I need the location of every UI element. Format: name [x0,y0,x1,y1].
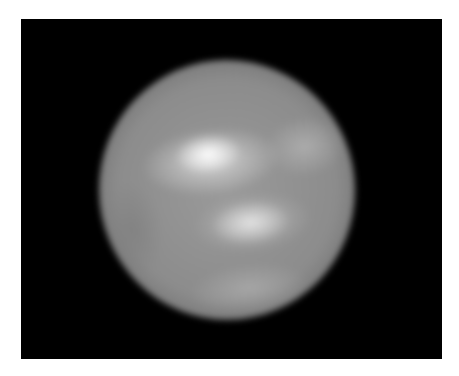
planet-sphere [86,47,368,332]
image-frame [21,19,442,359]
